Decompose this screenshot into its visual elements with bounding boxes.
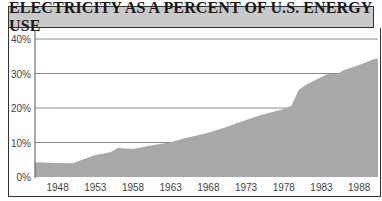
y-tick-label: 20% bbox=[11, 103, 31, 114]
x-tick-label: 1963 bbox=[160, 182, 183, 193]
area-series-electricity-share bbox=[35, 59, 378, 177]
x-axis-labels: 194819531958196319681973197819831988 bbox=[46, 182, 370, 193]
x-tick-label: 1988 bbox=[348, 182, 371, 193]
x-tick-label: 1968 bbox=[197, 182, 220, 193]
y-tick-label: 10% bbox=[11, 138, 31, 149]
area-chart: 0%10%20%30%40% 1948195319581963196819731… bbox=[0, 0, 382, 201]
x-tick-label: 1983 bbox=[310, 182, 333, 193]
x-tick-label: 1948 bbox=[46, 182, 69, 193]
x-tick-label: 1978 bbox=[273, 182, 296, 193]
y-tick-label: 40% bbox=[11, 34, 31, 45]
x-tick-label: 1958 bbox=[122, 182, 145, 193]
y-axis-labels: 0%10%20%30%40% bbox=[11, 34, 31, 183]
y-tick-label: 0% bbox=[17, 172, 32, 183]
y-tick-label: 30% bbox=[11, 69, 31, 80]
x-tick-label: 1973 bbox=[235, 182, 258, 193]
x-tick-label: 1953 bbox=[84, 182, 107, 193]
